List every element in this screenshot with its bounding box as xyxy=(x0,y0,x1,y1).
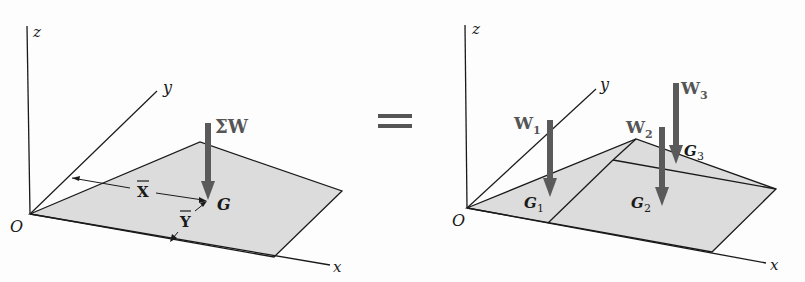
w2-label: W 2 xyxy=(625,117,653,141)
w1-arrow-shaft xyxy=(547,120,553,180)
centroid-g-label: G xyxy=(217,195,231,214)
sum-w-arrow-shaft xyxy=(205,123,211,183)
svg-text:3: 3 xyxy=(700,89,708,102)
g3-label: G 3 xyxy=(684,142,704,163)
svg-text:G: G xyxy=(631,194,644,212)
xbar-dimension-left xyxy=(75,119,134,176)
svg-text:2: 2 xyxy=(645,128,653,141)
w2-arrow-shaft xyxy=(659,127,665,189)
w3-arrow-shaft xyxy=(673,83,679,147)
ybar-label: Y xyxy=(179,213,191,231)
left-y-label: y xyxy=(162,78,173,97)
w1-label: W 1 xyxy=(513,113,541,137)
right-z-axis xyxy=(465,25,467,208)
svg-text:3: 3 xyxy=(697,150,704,163)
svg-text:1: 1 xyxy=(537,202,544,215)
svg-text:1: 1 xyxy=(533,124,541,137)
right-plate xyxy=(467,139,776,252)
xbar-arrowhead-left xyxy=(72,176,80,181)
right-y-label: y xyxy=(599,75,610,94)
right-x-label: x xyxy=(770,256,779,274)
svg-text:G: G xyxy=(524,194,537,212)
left-origin-label: O xyxy=(10,217,23,236)
left-z-label: z xyxy=(32,23,41,41)
right-panel: z y x O W 1 W 2 W 3 G 1 G 2 G 3 xyxy=(452,20,779,274)
left-x-label: x xyxy=(333,258,342,276)
right-origin-label: O xyxy=(452,211,465,230)
centroid-diagram: z y x O ΣW G X Y z y xyxy=(0,0,805,282)
left-z-axis xyxy=(27,26,30,214)
xbar-label: X xyxy=(137,183,149,201)
svg-text:G: G xyxy=(684,142,697,160)
svg-text:W: W xyxy=(680,78,701,98)
right-z-label: z xyxy=(471,20,480,38)
left-panel: z y x O ΣW G X Y xyxy=(10,23,342,276)
svg-text:2: 2 xyxy=(644,202,651,215)
diagram-svg: z y x O ΣW G X Y z y xyxy=(0,0,805,282)
svg-text:W: W xyxy=(513,113,534,133)
sum-w-label: ΣW xyxy=(215,116,249,137)
equals-sign xyxy=(378,114,412,128)
w3-label: W 3 xyxy=(680,78,708,102)
svg-text:W: W xyxy=(625,117,646,137)
left-plate xyxy=(30,142,342,257)
